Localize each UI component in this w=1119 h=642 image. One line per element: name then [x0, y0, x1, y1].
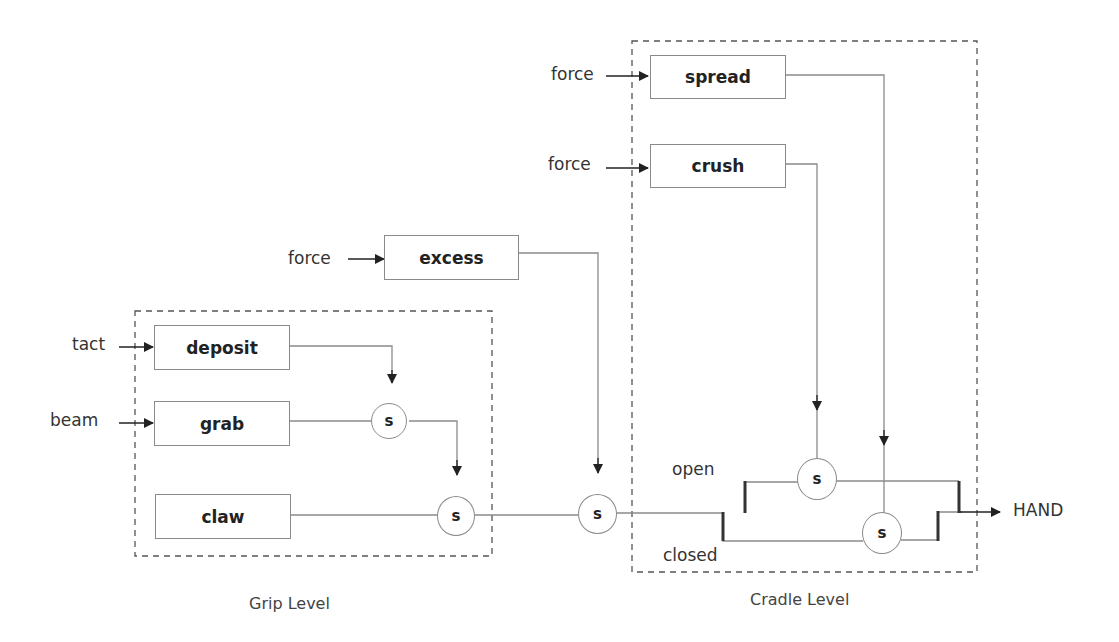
- module-grab-label: grab: [200, 414, 244, 434]
- input-grab-beam: beam: [50, 410, 98, 430]
- suppressor-label: s: [452, 507, 461, 525]
- output-hand: HAND: [1013, 500, 1063, 520]
- suppressor-label: s: [593, 505, 602, 523]
- diagram-canvas: [0, 0, 1119, 642]
- suppressor-node-excess: s: [578, 494, 617, 534]
- module-crush-label: crush: [692, 156, 745, 176]
- input-deposit-tact: tact: [72, 334, 105, 354]
- module-claw: claw: [155, 494, 291, 539]
- input-excess-force: force: [288, 248, 331, 268]
- module-crush: crush: [650, 144, 786, 188]
- module-deposit-label: deposit: [186, 338, 258, 358]
- suppressor-node-open: s: [797, 458, 837, 500]
- module-spread: spread: [650, 55, 786, 99]
- module-deposit: deposit: [154, 325, 290, 370]
- suppressor-label: s: [813, 470, 822, 488]
- input-crush-force: force: [548, 154, 591, 174]
- suppressor-node-closed: s: [862, 512, 902, 554]
- suppressor-label: s: [878, 524, 887, 542]
- suppressor-node-grab: s: [371, 403, 407, 439]
- module-excess-label: excess: [419, 248, 483, 268]
- module-grab: grab: [154, 401, 290, 446]
- module-excess: excess: [384, 235, 519, 280]
- branch-label-closed: closed: [663, 545, 718, 565]
- caption-grip-level: Grip Level: [249, 594, 330, 613]
- module-claw-label: claw: [201, 507, 244, 527]
- module-spread-label: spread: [685, 67, 751, 87]
- caption-cradle-level: Cradle Level: [750, 590, 849, 609]
- input-spread-force: force: [551, 64, 594, 84]
- suppressor-node-claw: s: [437, 496, 475, 536]
- suppressor-label: s: [385, 412, 394, 430]
- branch-label-open: open: [672, 459, 714, 479]
